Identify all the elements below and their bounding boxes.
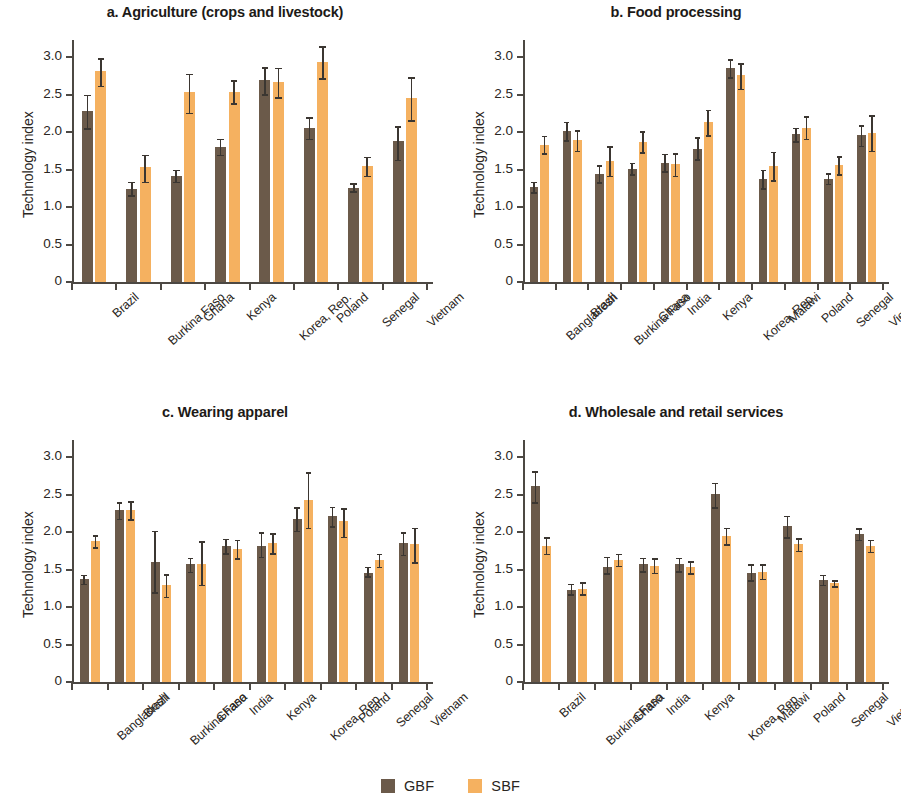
y-tick bbox=[66, 56, 73, 58]
error-bar-cap-lower bbox=[616, 566, 622, 568]
bar-gbf bbox=[603, 567, 612, 682]
error-bar-cap-lower bbox=[259, 557, 265, 559]
x-tick bbox=[355, 682, 357, 690]
error-bar-cap-upper bbox=[793, 128, 798, 130]
bar-gbf bbox=[759, 179, 768, 282]
bar-sbf bbox=[162, 585, 171, 682]
error-bar-cap-upper bbox=[531, 182, 536, 184]
x-tick bbox=[522, 282, 524, 290]
error-bar-cap-upper bbox=[330, 507, 336, 509]
x-axis-category-label: Kenya bbox=[244, 290, 279, 323]
error-bar-cap-upper bbox=[724, 528, 730, 530]
error-bar-cap-lower bbox=[128, 519, 134, 521]
bar-sbf bbox=[830, 583, 839, 682]
error-bar bbox=[618, 554, 620, 566]
bar-sbf bbox=[758, 572, 767, 682]
error-bar bbox=[690, 561, 692, 573]
error-bar-cap-lower bbox=[152, 592, 158, 594]
x-tick bbox=[71, 282, 73, 290]
error-bar-cap-upper bbox=[869, 115, 874, 117]
error-bar-cap-upper bbox=[270, 533, 276, 535]
x-axis-category-label: Kenya bbox=[284, 690, 319, 723]
error-bar-cap-lower bbox=[93, 547, 99, 549]
error-bar-cap-upper bbox=[142, 155, 149, 157]
error-bar-cap-lower bbox=[676, 571, 682, 573]
error-bar-cap-lower bbox=[869, 151, 874, 153]
error-bar-cap-upper bbox=[128, 501, 134, 503]
error-bar-cap-lower bbox=[377, 567, 383, 569]
error-bar-cap-upper bbox=[771, 152, 776, 154]
bar-gbf bbox=[819, 580, 828, 682]
bar-sbf bbox=[273, 82, 284, 282]
error-bar-cap-lower bbox=[712, 507, 718, 509]
error-bar-cap-upper bbox=[231, 80, 238, 82]
error-bar-cap-lower bbox=[837, 174, 842, 176]
error-bar-cap-upper bbox=[365, 567, 371, 569]
bar-sbf bbox=[802, 128, 811, 282]
x-tick bbox=[522, 682, 524, 690]
error-bar bbox=[798, 538, 800, 551]
bar-sbf bbox=[140, 167, 151, 282]
error-bar bbox=[762, 564, 764, 578]
error-bar-cap-upper bbox=[306, 117, 313, 119]
y-tick-label: 1.5 bbox=[14, 561, 62, 576]
bar-sbf bbox=[95, 71, 106, 282]
bar-gbf bbox=[857, 135, 866, 282]
y-tick bbox=[517, 644, 524, 646]
y-tick-label: 0 bbox=[465, 273, 513, 288]
y-tick-label: 1.0 bbox=[14, 198, 62, 213]
x-axis-line bbox=[72, 282, 433, 284]
y-tick-label: 3.0 bbox=[465, 448, 513, 463]
y-tick bbox=[66, 94, 73, 96]
error-bar-cap-lower bbox=[856, 540, 862, 542]
error-bar bbox=[119, 502, 121, 518]
error-bar-cap-lower bbox=[604, 573, 610, 575]
error-bar-cap-lower bbox=[401, 555, 407, 557]
bar-sbf bbox=[91, 541, 100, 682]
error-bar bbox=[643, 558, 645, 571]
bar-gbf bbox=[563, 131, 572, 282]
legend-swatch-gbf bbox=[381, 779, 395, 793]
error-bar bbox=[309, 117, 311, 139]
error-bar-cap-lower bbox=[532, 502, 538, 504]
error-bar-cap-lower bbox=[728, 77, 733, 79]
panel-title: d. Wholesale and retail services bbox=[451, 404, 901, 420]
error-bar-cap-upper bbox=[820, 575, 826, 577]
error-bar-cap-upper bbox=[544, 537, 550, 539]
x-axis-category-label: Brazil bbox=[557, 690, 589, 721]
error-bar bbox=[278, 68, 280, 97]
bar-sbf bbox=[794, 544, 803, 682]
error-bar bbox=[130, 501, 132, 519]
error-bar-cap-lower bbox=[796, 551, 802, 553]
bar-sbf bbox=[671, 164, 680, 282]
y-tick-label: 0.5 bbox=[14, 636, 62, 651]
x-tick bbox=[293, 282, 295, 290]
chart-legend: GBF SBF bbox=[0, 778, 901, 794]
legend-item-sbf: SBF bbox=[468, 778, 520, 794]
y-tick-label: 1.0 bbox=[14, 598, 62, 613]
error-bar-cap-upper bbox=[306, 472, 312, 474]
error-bar bbox=[740, 63, 742, 88]
x-tick bbox=[558, 682, 560, 690]
y-tick bbox=[517, 569, 524, 571]
bar-sbf bbox=[606, 161, 615, 282]
error-bar bbox=[607, 557, 609, 573]
x-tick bbox=[426, 282, 428, 290]
x-tick bbox=[686, 282, 688, 290]
y-tick bbox=[66, 244, 73, 246]
bar-gbf bbox=[567, 590, 576, 682]
error-bar-cap-upper bbox=[262, 67, 269, 69]
error-bar-cap-upper bbox=[640, 131, 645, 133]
error-bar-cap-lower bbox=[262, 94, 269, 96]
error-bar-cap-upper bbox=[199, 541, 205, 543]
error-bar-cap-upper bbox=[319, 46, 326, 48]
bar-sbf bbox=[868, 133, 877, 282]
error-bar-cap-lower bbox=[128, 195, 135, 197]
y-tick bbox=[517, 244, 524, 246]
error-bar-cap-lower bbox=[217, 155, 224, 157]
bar-gbf bbox=[693, 149, 702, 282]
error-bar-cap-upper bbox=[760, 564, 766, 566]
y-tick-label: 2.5 bbox=[465, 86, 513, 101]
x-axis-category-label: Brazil bbox=[110, 290, 142, 321]
error-bar-cap-lower bbox=[408, 120, 415, 122]
